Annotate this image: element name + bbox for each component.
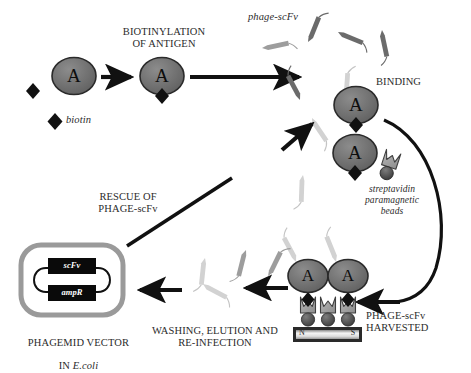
biotin-diamond-legend (48, 113, 63, 130)
label-phagemid-vector: PHAGEMID VECTOR IN E.coli (6, 325, 140, 373)
antigen-letter: A (62, 65, 86, 86)
phage-particle (262, 39, 298, 56)
label-biotinylation: BIOTINYLATION OF ANTIGEN (104, 26, 224, 50)
phage-particle (199, 283, 234, 308)
phagemid-line-1: PHAGEMID VECTOR (28, 337, 129, 348)
phage-particle (374, 30, 391, 66)
gene-label-ampr: ampR (48, 288, 96, 298)
antigen-letter: A (344, 94, 368, 115)
phage-particle (305, 117, 332, 151)
label-washing-elution: WASHING, ELUTION AND RE-INFECTION (140, 325, 290, 349)
phage-particle (193, 257, 206, 292)
phage-particle (294, 175, 305, 210)
phage-particle (282, 66, 307, 101)
label-streptavidin-beads: streptavidin paramagnetic beads (352, 184, 432, 218)
phage-particle (335, 31, 371, 53)
phagemid-vector-cell (21, 245, 123, 315)
biotin-diamond-free (26, 83, 40, 99)
magnet-pole-south: S (348, 329, 358, 338)
antigen-letter: A (337, 266, 359, 285)
arrow-rescue-into-pool (282, 124, 312, 150)
phage-particle (230, 248, 248, 284)
phage-particle (267, 244, 291, 279)
label-rescue-of-phage: RESCUE OF PHAGE-scFv (76, 191, 180, 215)
antigen-letter: A (297, 266, 319, 285)
label-phage-harvested: PHAGE-scFv HARVESTED (366, 310, 466, 334)
label-phage-scfv: phage-scFv (248, 11, 326, 23)
streptavidin-bead-legend (378, 149, 401, 181)
antigen-letter: A (343, 142, 367, 163)
phagemid-line-2-organism: E.coli (73, 360, 98, 371)
gene-label-scfv: scFv (48, 261, 96, 271)
label-binding: BINDING (376, 76, 448, 88)
phagemid-line-2-prefix: IN (59, 360, 73, 371)
label-biotin: biotin (66, 114, 114, 126)
magnet-pole-north: N (297, 329, 307, 338)
antigen-letter: A (150, 65, 174, 86)
